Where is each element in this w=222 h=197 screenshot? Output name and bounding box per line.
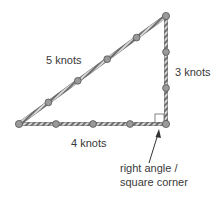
vertical-label: 3 knots bbox=[175, 66, 210, 78]
hypotenuse-label: 5 knots bbox=[46, 54, 81, 66]
base-label: 4 knots bbox=[71, 137, 106, 149]
callout-arrow bbox=[149, 129, 161, 163]
callout-label-line2: square corner bbox=[120, 176, 188, 188]
rope-sides bbox=[19, 16, 166, 124]
right-angle-marker bbox=[155, 114, 164, 123]
callout-label-line1: right angle / bbox=[120, 162, 177, 174]
rope-triangle-diagram bbox=[0, 0, 222, 197]
